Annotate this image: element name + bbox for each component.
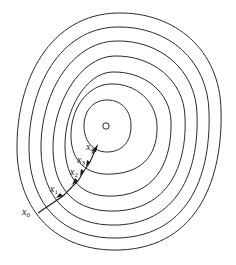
contour-ring-4	[53, 56, 185, 211]
label-x4: x4	[85, 141, 94, 154]
label-x0: x0	[21, 206, 30, 219]
contour-ring-3	[65, 72, 171, 196]
contour-ring-1	[84, 100, 131, 152]
minimum-marker	[103, 123, 109, 129]
contour-ring-7	[17, 13, 221, 250]
contour-ring-5	[41, 41, 197, 225]
contour-ring-6	[29, 27, 209, 238]
descent-path	[38, 146, 97, 213]
label-x3: x3	[76, 154, 85, 167]
label-x2: x2	[69, 166, 78, 179]
label-x1: x1	[49, 183, 58, 196]
contour-diagram: x0 x1 x2 x3 x4	[0, 0, 236, 265]
